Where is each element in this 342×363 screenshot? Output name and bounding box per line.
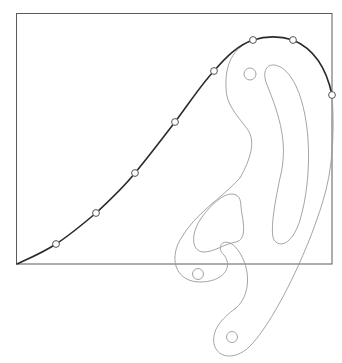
inner-slot-long	[265, 65, 309, 244]
data-point-6	[250, 37, 257, 44]
french-curve-diagram	[0, 0, 342, 363]
template-hole-top	[244, 68, 256, 80]
inner-slot-small	[194, 194, 244, 252]
template-hole-bottom	[227, 332, 238, 343]
data-point-4	[172, 119, 179, 126]
plot-frame	[17, 14, 333, 265]
data-point-8	[329, 92, 336, 99]
template-hole-middle	[193, 269, 204, 280]
data-point-5	[211, 68, 218, 75]
data-point-2	[93, 210, 100, 217]
fitted-curve	[17, 37, 332, 264]
french-curve-template-outline	[175, 40, 333, 356]
data-point-3	[132, 170, 139, 177]
data-point-7	[290, 37, 297, 44]
data-point-1	[53, 241, 60, 248]
data-points	[53, 37, 336, 248]
